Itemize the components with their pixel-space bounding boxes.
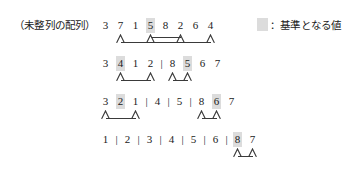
array-cell: 1 <box>98 132 113 147</box>
array-cell-pivot: 5 <box>180 56 195 71</box>
array-cell-value: 7 <box>116 18 126 33</box>
array-cell: 2 <box>143 56 158 71</box>
array-row: 1|2|3|4|5|6|87 <box>0 132 363 170</box>
array-cell-value: 5 <box>175 94 185 109</box>
array-cell: 7 <box>224 94 239 109</box>
array-cell-pivot: 6 <box>209 94 224 109</box>
array-row: 37158264 <box>0 18 363 56</box>
range-connector-line <box>121 42 211 43</box>
array-cell-value: 4 <box>116 56 126 71</box>
array-cell: 1 <box>128 18 143 33</box>
array-cell-pivot: 4 <box>113 56 128 71</box>
array-cell-value: 8 <box>168 56 178 71</box>
array-cell-value: 6 <box>191 18 201 33</box>
range-caret-icon <box>248 148 257 156</box>
array-row: 3412|8567 <box>0 56 363 94</box>
array-cell-pivot: 5 <box>143 18 158 33</box>
partition-separator: | <box>113 132 120 147</box>
array-cell-value: 4 <box>206 18 216 33</box>
array-cell-value: 1 <box>131 18 141 33</box>
array-cell: 8 <box>165 56 180 71</box>
array-cell-value: 2 <box>176 18 186 33</box>
array-cell-value: 7 <box>227 94 237 109</box>
range-markers <box>0 72 363 88</box>
range-caret-icon <box>116 72 125 80</box>
range-caret-icon <box>131 110 140 118</box>
array-values: 3412|8567 <box>0 56 363 72</box>
range-caret-icon <box>168 72 177 80</box>
partition-separator: | <box>179 132 186 147</box>
array-cell: 4 <box>150 94 165 109</box>
partition-separator: | <box>143 94 150 109</box>
quicksort-partition-diagram: （未整列の配列） ：基準となる値 371582643412|8567321|4|… <box>0 0 363 186</box>
array-cell-value: 7 <box>213 56 223 71</box>
array-cell-value: 3 <box>101 56 111 71</box>
array-cell-value: 5 <box>183 56 193 71</box>
array-cell: 7 <box>210 56 225 71</box>
array-cell: 8 <box>158 18 173 33</box>
array-cell-value: 3 <box>101 18 111 33</box>
array-cell-value: 5 <box>146 18 156 33</box>
array-cell-value: 6 <box>212 94 222 109</box>
partition-separator: | <box>223 132 230 147</box>
array-cell-value: 3 <box>145 132 155 147</box>
array-cell: 1 <box>128 56 143 71</box>
array-cell-value: 8 <box>161 18 171 33</box>
partition-separator: | <box>158 56 165 71</box>
array-cell-value: 2 <box>123 132 133 147</box>
array-cell: 2 <box>120 132 135 147</box>
range-markers <box>0 34 363 50</box>
array-values: 321|4|5|867 <box>0 94 363 110</box>
array-cell-value: 8 <box>233 132 243 147</box>
array-cell-value: 4 <box>167 132 177 147</box>
array-cell-value: 6 <box>211 132 221 147</box>
range-caret-icon <box>146 72 155 80</box>
range-markers <box>0 148 363 164</box>
array-cell: 8 <box>194 94 209 109</box>
array-cell: 6 <box>188 18 203 33</box>
partition-separator: | <box>201 132 208 147</box>
partition-separator: | <box>157 132 164 147</box>
range-caret-icon <box>206 34 215 42</box>
array-cell: 3 <box>98 94 113 109</box>
array-cell: 1 <box>128 94 143 109</box>
array-cell: 7 <box>113 18 128 33</box>
array-cell: 4 <box>203 18 218 33</box>
array-cell-value: 6 <box>198 56 208 71</box>
array-cell: 3 <box>98 56 113 71</box>
range-caret-icon <box>101 110 110 118</box>
array-values: 1|2|3|4|5|6|87 <box>0 132 363 148</box>
array-cell: 6 <box>208 132 223 147</box>
array-cell-value: 7 <box>248 132 258 147</box>
array-cell: 5 <box>186 132 201 147</box>
array-cell-value: 4 <box>153 94 163 109</box>
partition-separator: | <box>187 94 194 109</box>
array-cell: 5 <box>172 94 187 109</box>
partition-separator: | <box>165 94 172 109</box>
partition-separator: | <box>135 132 142 147</box>
range-caret-icon <box>116 34 125 42</box>
array-cell: 2 <box>173 18 188 33</box>
range-caret-icon <box>212 110 221 118</box>
array-cell-pivot: 8 <box>230 132 245 147</box>
array-cell-value: 3 <box>101 94 111 109</box>
array-row: 321|4|5|867 <box>0 94 363 132</box>
array-cell-pivot: 2 <box>113 94 128 109</box>
range-caret-icon <box>233 148 242 156</box>
array-values: 37158264 <box>0 18 363 34</box>
array-cell: 3 <box>142 132 157 147</box>
array-cell-value: 8 <box>197 94 207 109</box>
array-cell: 6 <box>195 56 210 71</box>
array-cell: 4 <box>164 132 179 147</box>
array-cell-value: 1 <box>101 132 111 147</box>
range-markers <box>0 110 363 126</box>
array-cell-value: 1 <box>131 94 141 109</box>
range-caret-icon <box>197 110 206 118</box>
range-caret-icon <box>146 34 155 42</box>
array-cell-value: 5 <box>189 132 199 147</box>
array-cell-value: 1 <box>131 56 141 71</box>
array-cell-value: 2 <box>146 56 156 71</box>
array-cell: 7 <box>245 132 260 147</box>
range-caret-icon <box>183 72 192 80</box>
array-cell: 3 <box>98 18 113 33</box>
